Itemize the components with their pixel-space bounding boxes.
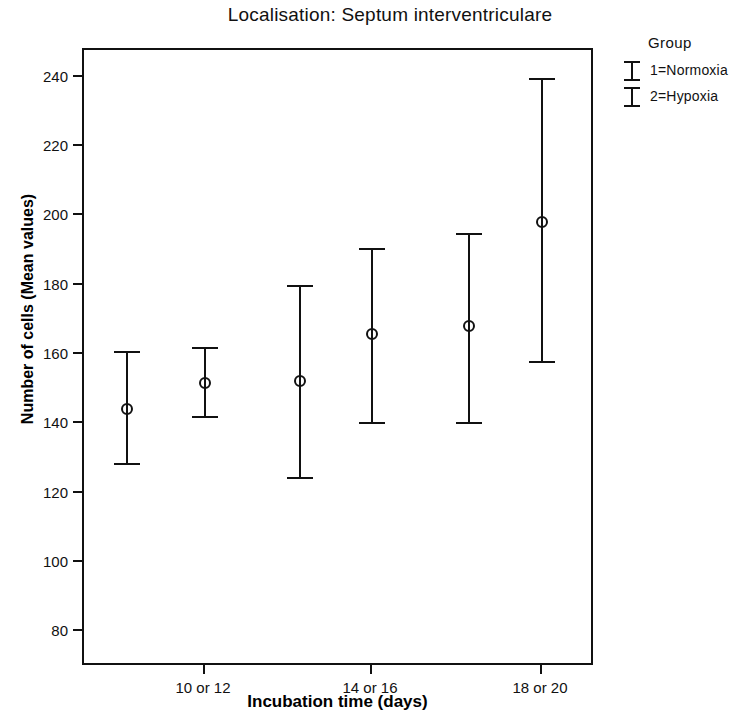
y-tick-label: 180 [22,275,68,292]
y-tick-label: 200 [22,206,68,223]
y-tick-mark [73,629,82,631]
y-tick-mark [73,421,82,423]
y-tick-mark [73,144,82,146]
x-tick-label: 14 or 16 [342,679,397,696]
error-bar-lower-cap [359,422,385,424]
error-bar-lower-cap [529,361,555,363]
legend-entry-label: 2=Hypoxia [650,88,718,104]
y-tick-mark [73,352,82,354]
error-bar-lower-cap [287,477,313,479]
y-axis-title: Number of cells (Mean values) [19,119,37,499]
y-tick-label: 160 [22,345,68,362]
y-tick-mark [73,560,82,562]
y-tick-label: 140 [22,414,68,431]
chart-title: Localisation: Septum interventriculare [120,4,660,26]
x-tick-label: 18 or 20 [512,679,567,696]
mean-marker-icon [294,375,306,387]
y-tick-label: 120 [22,483,68,500]
y-tick-label: 220 [22,137,68,154]
legend-entry-list: 1=Normoxia2=Hypoxia [648,57,748,109]
legend-entry-label: 1=Normoxia [650,62,728,78]
legend-entry: 2=Hypoxia [620,83,748,109]
legend: Group 1=Normoxia2=Hypoxia [648,34,748,109]
mean-marker-icon [463,320,475,332]
legend-entry: 1=Normoxia [620,57,748,83]
y-tick-label: 100 [22,553,68,570]
mean-marker-icon [121,403,133,415]
error-bar-lower-cap [192,416,218,418]
errorbar-chart-figure: Localisation: Septum interventriculare N… [0,0,750,724]
error-bar-upper-cap [529,78,555,80]
legend-errorbar-icon [620,85,646,107]
error-bar-lower-cap [456,422,482,424]
y-tick-label: 240 [22,67,68,84]
mean-marker-icon [536,216,548,228]
mean-marker-icon [366,328,378,340]
mean-marker-icon [199,377,211,389]
error-bar-lower-cap [114,463,140,465]
plot-area [82,48,593,665]
legend-errorbar-icon [620,59,646,81]
y-tick-label: 80 [22,622,68,639]
y-tick-mark [73,213,82,215]
error-bar-upper-cap [114,351,140,353]
y-tick-mark [73,283,82,285]
x-tick-mark [203,665,205,674]
x-tick-mark [540,665,542,674]
legend-title: Group [648,34,748,51]
y-tick-mark [73,491,82,493]
x-tick-mark [370,665,372,674]
x-tick-label: 10 or 12 [175,679,230,696]
error-bar-upper-cap [192,347,218,349]
error-bar-upper-cap [287,285,313,287]
error-bar-upper-cap [456,233,482,235]
error-bar-upper-cap [359,248,385,250]
y-tick-mark [73,75,82,77]
